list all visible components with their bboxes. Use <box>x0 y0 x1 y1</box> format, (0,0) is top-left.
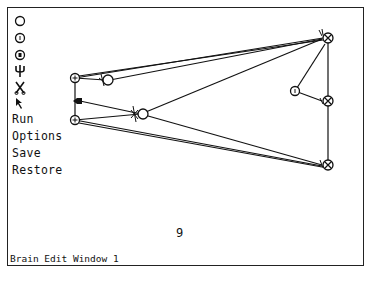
brain-canvas[interactable] <box>0 0 373 286</box>
hidden-neuron-2[interactable] <box>131 106 148 122</box>
output-neuron-top[interactable] <box>319 29 333 43</box>
input-neuron-top[interactable] <box>71 74 80 83</box>
hidden-neuron-3[interactable] <box>291 87 300 96</box>
input-neuron-bottom[interactable] <box>71 116 80 125</box>
output-neuron-middle[interactable] <box>320 96 333 106</box>
hidden-neuron-1[interactable] <box>99 74 113 86</box>
output-neuron-bottom[interactable] <box>320 160 333 170</box>
sensor-node[interactable] <box>73 98 82 104</box>
